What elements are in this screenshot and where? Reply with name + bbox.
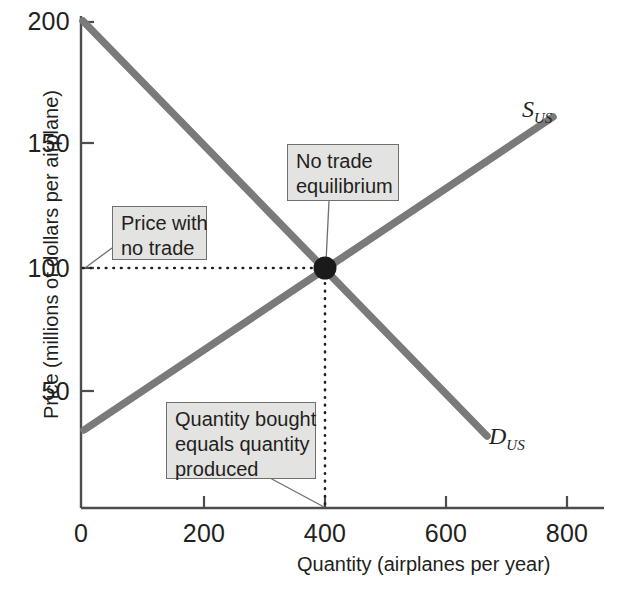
x-axis-title: Quantity (airplanes per year) bbox=[297, 553, 607, 576]
annotation-price-with-no-trade: Price with no trade bbox=[112, 206, 207, 260]
supply-curve-label: SUS bbox=[522, 96, 552, 127]
y-axis-title: Price (millions of dollars per airplane) bbox=[40, 45, 63, 465]
annotation-line-2: no trade bbox=[121, 236, 198, 261]
supply-curve-label-base: S bbox=[522, 96, 534, 122]
supply-demand-chart: 200 150 100 50 0 200 400 600 800 Price (… bbox=[0, 0, 617, 592]
demand-curve-label-base: D bbox=[489, 423, 506, 449]
annotation-line-2: equilibrium bbox=[296, 174, 390, 199]
annotation-line-1: Price with bbox=[121, 211, 198, 236]
x-tick-label-800: 800 bbox=[537, 519, 597, 548]
demand-curve-label-subscript: US bbox=[506, 437, 524, 453]
annotation-line-2: equals quantity bbox=[175, 432, 307, 457]
x-tick-label-400: 400 bbox=[295, 519, 355, 548]
supply-curve-label-subscript: US bbox=[534, 110, 552, 126]
leader-line-quantity-bought bbox=[270, 478, 324, 507]
leader-line-price-no-trade bbox=[85, 248, 112, 268]
demand-curve-label: DUS bbox=[489, 423, 525, 454]
chart-canvas bbox=[0, 0, 617, 592]
annotation-line-3: produced bbox=[175, 457, 307, 482]
annotation-line-1: No trade bbox=[296, 149, 390, 174]
annotation-no-trade-equilibrium: No trade equilibrium bbox=[287, 144, 399, 201]
annotation-quantity-bought-equals-quantity-produced: Quantity bought equals quantity produced bbox=[166, 402, 316, 479]
y-tick-label-200: 200 bbox=[6, 7, 70, 36]
x-tick-label-600: 600 bbox=[416, 519, 476, 548]
equilibrium-point-marker bbox=[314, 257, 337, 280]
x-tick-label-0: 0 bbox=[59, 519, 103, 548]
leader-line-no-trade-equilibrium bbox=[326, 201, 329, 262]
x-tick-label-200: 200 bbox=[174, 519, 234, 548]
annotation-line-1: Quantity bought bbox=[175, 407, 307, 432]
